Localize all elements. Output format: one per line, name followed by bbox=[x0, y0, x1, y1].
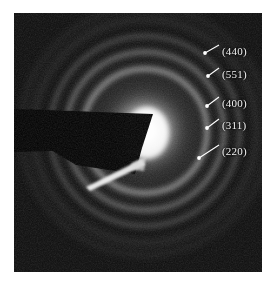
index-label-400: (400) bbox=[222, 98, 247, 109]
diffraction-pattern-panel: (440) (551) (400) (311) (220) bbox=[14, 13, 262, 272]
index-label-311: (311) bbox=[222, 120, 246, 131]
index-label-220: (220) bbox=[222, 146, 247, 157]
marker-dot-400 bbox=[205, 104, 209, 108]
figure-root: (440) (551) (400) (311) (220) bbox=[0, 0, 277, 290]
marker-dot-311 bbox=[205, 126, 209, 130]
index-label-440: (440) bbox=[222, 46, 247, 57]
index-label-551: (551) bbox=[222, 69, 247, 80]
marker-dot-440 bbox=[203, 51, 207, 55]
marker-dot-220 bbox=[197, 156, 201, 160]
marker-dot-551 bbox=[206, 74, 210, 78]
